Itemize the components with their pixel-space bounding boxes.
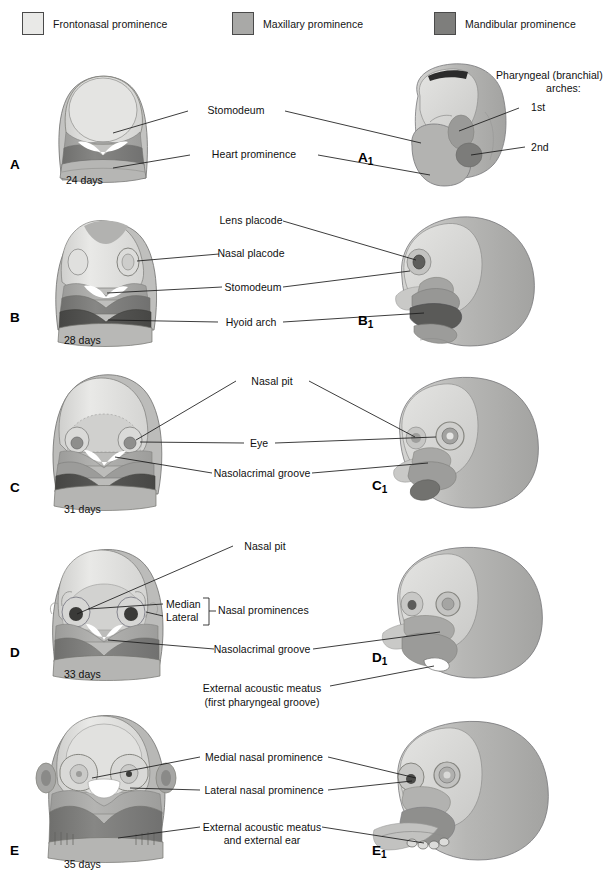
panel-letter-d: D (10, 645, 20, 660)
panel-letter-b1: B1 (358, 313, 373, 330)
panel-letter-e: E (10, 843, 19, 858)
panel-d-frontal-embryo (50, 550, 163, 681)
figure-artwork (0, 0, 607, 876)
label-arch-second: 2nd (531, 141, 549, 153)
panel-letter-c: C (10, 480, 20, 495)
label-external-acoustic-meatus-e-line2: and external ear (224, 834, 301, 846)
label-pharyngeal-arches-line1: Pharyngeal (branchial) (496, 69, 603, 81)
label-lens-placode: Lens placode (219, 214, 282, 226)
panel-letter-a: A (10, 157, 20, 172)
label-lateral-nasal-prominence: Lateral nasal prominence (204, 784, 323, 796)
label-pharyngeal-arches-line2: arches: (546, 82, 581, 94)
panel-c-leader-lines (115, 381, 436, 473)
panel-a1-lateral-embryo (412, 64, 506, 186)
label-stomodeum-a: Stomodeum (207, 104, 264, 116)
panel-c1-lateral-embryo (394, 377, 539, 508)
label-hyoid-arch: Hyoid arch (226, 316, 277, 328)
panel-letter-d1: D1 (372, 650, 387, 667)
panel-letter-b: B (10, 310, 20, 325)
panel-letter-a1: A1 (358, 150, 373, 167)
label-lateral: Lateral (166, 611, 198, 623)
panel-c-age: 31 days (64, 503, 101, 515)
label-nasal-placode: Nasal placode (217, 247, 284, 259)
panel-letter-e1: E1 (372, 843, 387, 860)
label-heart-prominence-a: Heart prominence (212, 148, 296, 160)
label-external-acoustic-meatus-d-line1: External acoustic meatus (203, 682, 322, 694)
panel-c-frontal-embryo (53, 375, 162, 511)
panel-e-age: 35 days (64, 858, 101, 870)
panel-b-age: 28 days (64, 334, 101, 346)
label-medial-nasal-prominence: Medial nasal prominence (205, 751, 323, 763)
panel-a-age: 24 days (66, 174, 103, 186)
label-nasolacrimal-groove-c: Nasolacrimal groove (214, 467, 311, 479)
label-nasolacrimal-groove-d: Nasolacrimal groove (214, 643, 311, 655)
label-median: Median (166, 598, 201, 610)
embryo-face-development-figure: Frontonasal prominence Maxillary promine… (0, 0, 607, 876)
label-stomodeum-b: Stomodeum (224, 281, 281, 293)
panel-a-frontal-embryo (59, 76, 148, 182)
panel-letter-c1: C1 (372, 478, 387, 495)
label-eye-c: Eye (250, 437, 268, 449)
panel-d1-lateral-embryo (382, 547, 542, 678)
label-external-acoustic-meatus-d-line2: (first pharyngeal groove) (204, 696, 319, 708)
label-nasal-pit-d: Nasal pit (244, 540, 285, 552)
label-arch-first: 1st (531, 101, 545, 113)
label-external-acoustic-meatus-e-line1: External acoustic meatus (203, 821, 322, 833)
panel-b-frontal-embryo (56, 220, 157, 346)
label-nasal-prominences: Nasal prominences (218, 604, 309, 616)
label-nasal-pit-c: Nasal pit (251, 375, 292, 387)
panel-d-age: 33 days (64, 668, 101, 680)
panel-b1-lateral-embryo (396, 217, 535, 346)
